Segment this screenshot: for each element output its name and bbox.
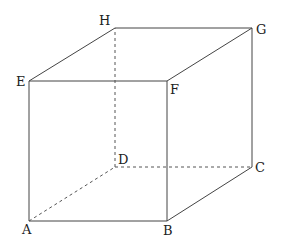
vertex-label-b: B [163,223,173,238]
edge-fg [167,28,252,81]
vertex-label-g: G [256,22,266,37]
vertex-label-f: F [170,82,179,97]
vertex-label-h: H [99,13,110,28]
vertex-label-d: D [118,152,128,167]
cube-diagram: H G E F D C A B [0,0,282,250]
edge-he [29,28,115,81]
hidden-edge-ad [29,167,115,221]
vertex-label-e: E [16,74,26,89]
edge-bc [167,167,252,221]
vertex-label-c: C [255,160,265,175]
vertex-label-a: A [21,222,32,237]
